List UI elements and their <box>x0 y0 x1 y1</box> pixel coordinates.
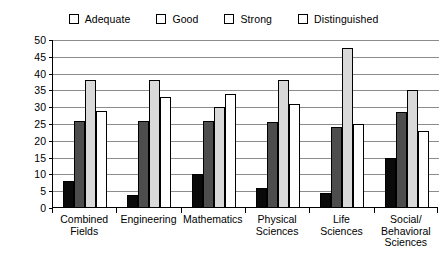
bar-group <box>53 40 117 208</box>
chart-legend: Adequate Good Strong Distinguished <box>0 10 447 28</box>
bar-chart: Adequate Good Strong Distinguished Perce… <box>0 0 447 263</box>
y-axis-tick-label: 15 <box>0 153 46 164</box>
legend-item-strong: Strong <box>224 14 272 25</box>
bar-distinguished <box>289 104 300 208</box>
x-axis-tick <box>437 208 438 213</box>
y-axis-tick-label: 30 <box>0 102 46 113</box>
bar-strong <box>278 80 289 208</box>
bar-good <box>331 127 342 208</box>
bar-distinguished <box>160 97 171 208</box>
legend-item-adequate: Adequate <box>69 14 131 25</box>
legend-swatch-adequate <box>69 14 79 24</box>
x-axis-tick <box>181 208 182 213</box>
bar-adequate <box>256 188 267 208</box>
legend-label-adequate: Adequate <box>85 14 131 25</box>
bar-group <box>375 40 439 208</box>
x-axis-tick-label-line: Sciences <box>309 226 373 238</box>
x-axis-tick-label-line: Mathematics <box>181 214 245 226</box>
bar-distinguished <box>225 94 236 208</box>
y-axis-tick-label: 10 <box>0 169 46 180</box>
bar-group <box>182 40 246 208</box>
x-axis-tick-label-line: Sciences <box>374 237 438 249</box>
x-axis-tick-label-line: Life <box>309 214 373 226</box>
y-axis-tick-label: 20 <box>0 136 46 147</box>
bar-good <box>74 121 85 208</box>
x-axis-tick-label-line: Engineering <box>116 214 180 226</box>
bar-strong <box>85 80 96 208</box>
legend-item-good: Good <box>156 14 198 25</box>
y-axis-tick-label: 45 <box>0 52 46 63</box>
legend-item-distinguished: Distinguished <box>298 14 378 25</box>
x-axis-tick <box>52 208 53 213</box>
x-axis-tick-labels: CombinedFieldsEngineeringMathematicsPhys… <box>52 214 438 249</box>
bar-good <box>203 121 214 208</box>
y-axis-tick-label: 5 <box>0 186 46 197</box>
bar-groups <box>53 40 439 208</box>
bar-good <box>267 122 278 208</box>
x-axis-tick-label: Social/BehavioralSciences <box>374 214 438 249</box>
x-axis-tick <box>309 208 310 213</box>
bar-strong <box>214 107 225 208</box>
y-axis-tick-label: 40 <box>0 69 46 80</box>
bar-distinguished <box>353 124 364 208</box>
x-axis-tick-label: CombinedFields <box>52 214 116 249</box>
bar-distinguished <box>96 111 107 208</box>
bar-adequate <box>192 174 203 208</box>
legend-swatch-strong <box>224 14 234 24</box>
legend-label-distinguished: Distinguished <box>314 14 378 25</box>
y-axis-tick-label: 50 <box>0 35 46 46</box>
x-axis-tick-label-line: Sciences <box>245 226 309 238</box>
x-axis-tick-label-line: Social/ <box>374 214 438 226</box>
bar-distinguished <box>418 131 429 208</box>
x-axis-tick-label-line: Physical <box>245 214 309 226</box>
bar-group <box>310 40 374 208</box>
x-axis-tick-label: LifeSciences <box>309 214 373 249</box>
x-axis-tick <box>116 208 117 213</box>
x-axis-tick-label-line: Fields <box>52 226 116 238</box>
y-axis-tick-label: 35 <box>0 85 46 96</box>
legend-swatch-distinguished <box>298 14 308 24</box>
bar-group <box>246 40 310 208</box>
bar-strong <box>407 90 418 208</box>
x-axis-tick <box>374 208 375 213</box>
bar-adequate <box>320 193 331 208</box>
bar-group <box>117 40 181 208</box>
x-axis-tick-label: Engineering <box>116 214 180 249</box>
bar-adequate <box>63 181 74 208</box>
x-axis-tick-label-line: Combined <box>52 214 116 226</box>
legend-swatch-good <box>156 14 166 24</box>
y-axis-tick-label: 0 <box>0 203 46 214</box>
bar-strong <box>149 80 160 208</box>
x-axis-tick-label: Mathematics <box>181 214 245 249</box>
legend-label-good: Good <box>172 14 198 25</box>
bar-adequate <box>385 158 396 208</box>
bar-good <box>396 112 407 208</box>
legend-label-strong: Strong <box>240 14 272 25</box>
x-axis-tick-label: PhysicalSciences <box>245 214 309 249</box>
bar-strong <box>342 48 353 208</box>
y-axis-tick-label: 25 <box>0 119 46 130</box>
bar-adequate <box>127 195 138 208</box>
plot-area <box>52 40 438 208</box>
x-axis-tick <box>245 208 246 213</box>
bar-good <box>138 121 149 208</box>
